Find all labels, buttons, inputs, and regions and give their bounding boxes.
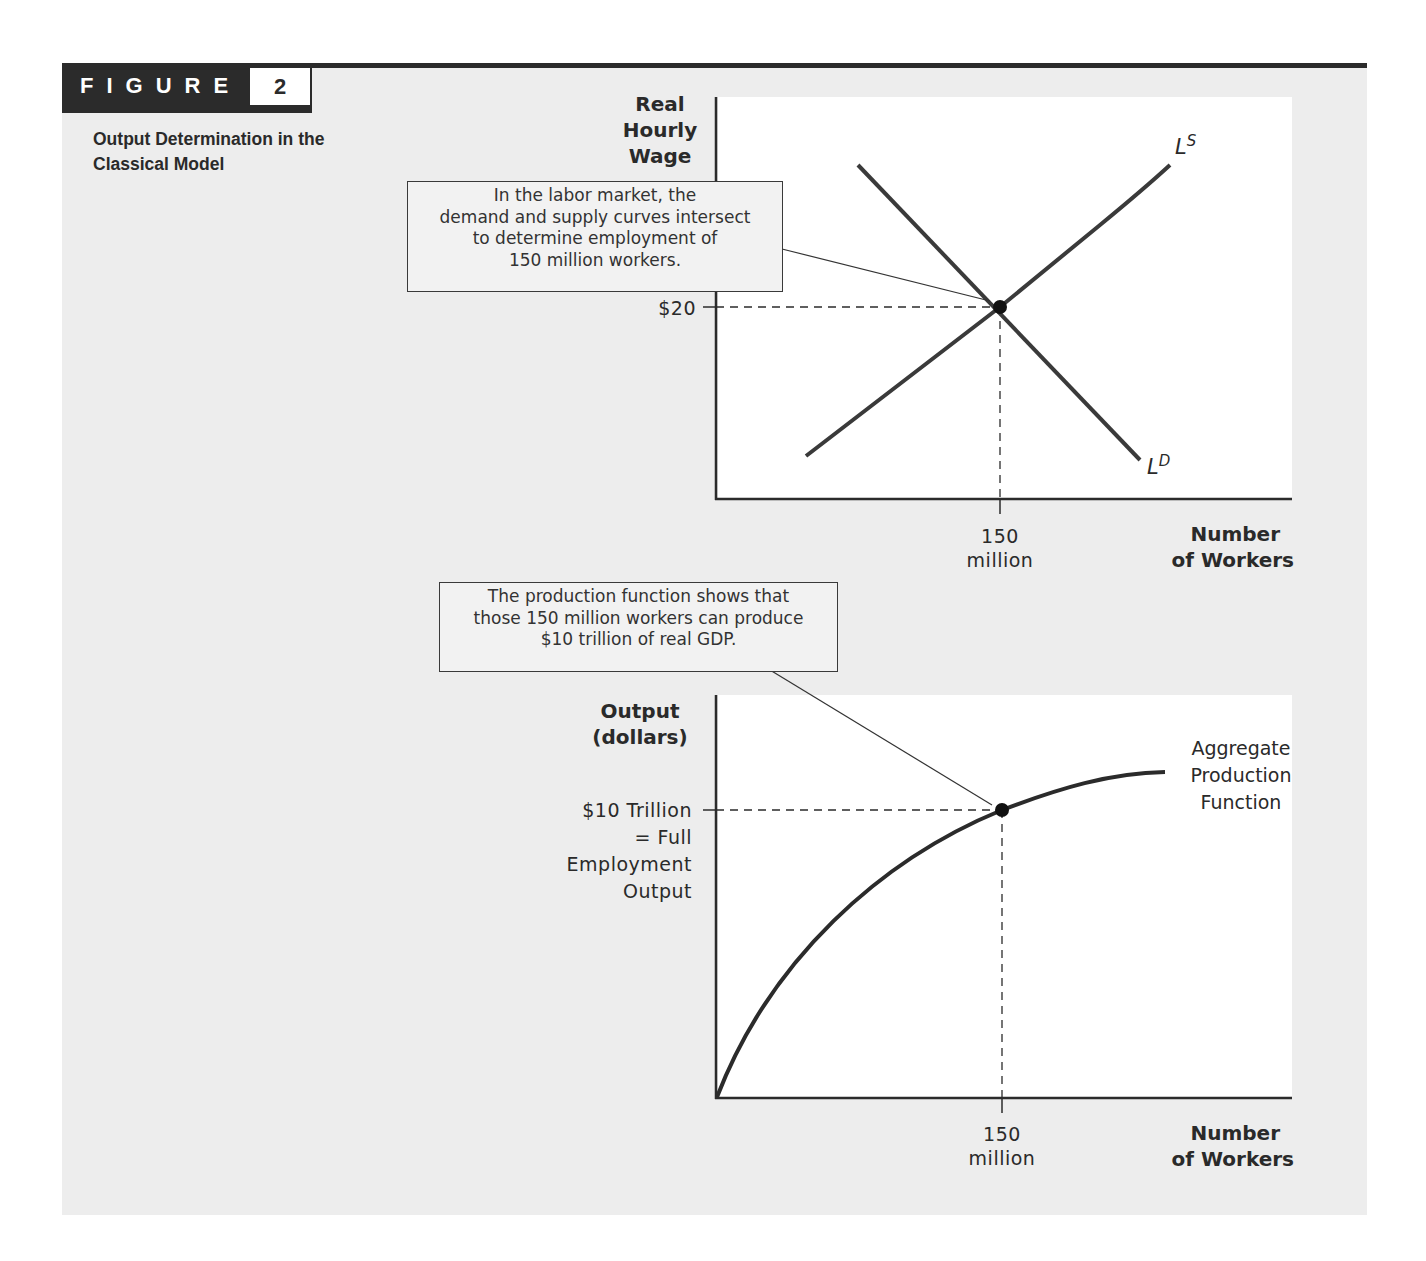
x-axis-title-line: of Workers: [1160, 1146, 1294, 1172]
labor-supply-curve: [806, 165, 1170, 456]
production-y-tick-label: $10 Trillion = Full Employment Output: [540, 797, 692, 905]
production-curve-label: Aggregate Production Function: [1175, 735, 1307, 816]
labor-guides: [716, 307, 1000, 499]
x-axis-title-line: Number: [1160, 521, 1294, 547]
labor-annotation-box: In the labor market, the demand and supp…: [407, 181, 783, 292]
curve-label-line: Production: [1175, 762, 1307, 789]
annotation-line: those 150 million workers can produce: [440, 608, 837, 630]
production-x-tick-label: 150 million: [942, 1122, 1062, 1170]
y-tick-line: $10 Trillion: [540, 797, 692, 824]
x-axis-title-line: of Workers: [1160, 547, 1294, 573]
y-tick-line: = Full: [540, 824, 692, 851]
curve-superscript: D: [1159, 452, 1171, 470]
curve-label-line: Function: [1175, 789, 1307, 816]
x-tick-line: 150: [942, 1122, 1062, 1146]
annotation-line: $10 trillion of real GDP.: [440, 629, 837, 651]
labor-supply-label: LS: [1175, 132, 1196, 159]
y-tick-line: Employment: [540, 851, 692, 878]
x-tick-line: million: [942, 1146, 1062, 1170]
production-annotation-leader: [770, 670, 992, 805]
curve-letter: L: [1147, 455, 1159, 479]
production-guides: [716, 810, 1002, 1098]
annotation-line: demand and supply curves intersect: [408, 207, 782, 229]
production-y-axis-title: Output (dollars): [580, 698, 700, 750]
x-tick-line: million: [940, 548, 1060, 572]
y-axis-title-line: Wage: [600, 143, 720, 169]
labor-annotation-leader: [782, 249, 990, 301]
curve-superscript: S: [1187, 132, 1197, 150]
labor-equilibrium-point: [993, 300, 1007, 314]
y-tick-line: Output: [540, 878, 692, 905]
production-point: [995, 803, 1009, 817]
x-tick-line: 150: [940, 524, 1060, 548]
production-annotation-box: The production function shows that those…: [439, 582, 838, 672]
annotation-line: In the labor market, the: [408, 185, 782, 207]
y-axis-title-line: (dollars): [580, 724, 700, 750]
labor-y-axis-title: Real Hourly Wage: [600, 91, 720, 169]
production-x-axis-title: Number of Workers: [1160, 1120, 1294, 1172]
y-axis-title-line: Hourly: [600, 117, 720, 143]
curve-letter: L: [1175, 135, 1187, 159]
y-axis-title-line: Output: [580, 698, 700, 724]
curve-label-line: Aggregate: [1175, 735, 1307, 762]
annotation-line: The production function shows that: [440, 586, 837, 608]
labor-x-axis-title: Number of Workers: [1160, 521, 1294, 573]
x-axis-title-line: Number: [1160, 1120, 1294, 1146]
labor-y-tick-label: $20: [630, 296, 696, 320]
annotation-line: to determine employment of: [408, 228, 782, 250]
y-axis-title-line: Real: [600, 91, 720, 117]
labor-x-tick-label: 150 million: [940, 524, 1060, 572]
labor-demand-label: LD: [1147, 452, 1170, 479]
production-function-curve: [717, 772, 1165, 1097]
annotation-line: 150 million workers.: [408, 250, 782, 272]
